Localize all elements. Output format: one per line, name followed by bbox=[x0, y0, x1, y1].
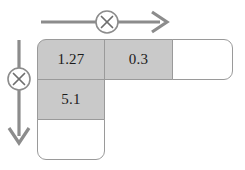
grid-cell-r2c0[interactable] bbox=[37, 119, 105, 160]
multiply-circle-icon-horizontal bbox=[96, 11, 118, 33]
grid-cell-r0c0[interactable]: 1.27 bbox=[37, 39, 105, 80]
grid-cell-r1c0[interactable]: 5.1 bbox=[37, 79, 105, 120]
diagram-canvas: 1.27 0.3 5.1 bbox=[0, 0, 245, 170]
grid-cell-r0c2[interactable] bbox=[172, 39, 233, 80]
vertical-operator-arrow bbox=[8, 40, 30, 143]
grid-cell-value: 1.27 bbox=[57, 51, 84, 68]
grid-cell-value: 0.3 bbox=[129, 51, 148, 68]
horizontal-operator-arrow bbox=[41, 11, 167, 33]
multiply-circle-icon-vertical bbox=[8, 68, 30, 90]
grid-cell-value: 5.1 bbox=[61, 91, 80, 108]
grid-cell-r0c1[interactable]: 0.3 bbox=[104, 39, 173, 80]
multiplication-grid: 1.27 0.3 5.1 bbox=[37, 39, 233, 160]
